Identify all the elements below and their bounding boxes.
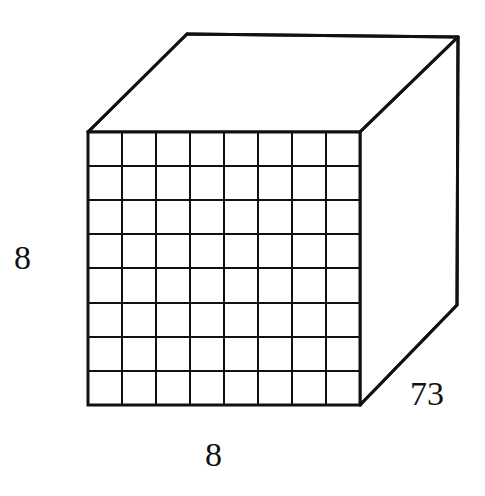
dimension-label-height: 8 — [14, 241, 31, 275]
dimension-label-depth: 73 — [410, 377, 444, 411]
cube-diagram: 8 8 73 — [0, 0, 485, 496]
edge-back-right-vertical — [457, 37, 458, 305]
dimension-label-width: 8 — [205, 438, 222, 472]
cube-drawing — [0, 0, 485, 496]
